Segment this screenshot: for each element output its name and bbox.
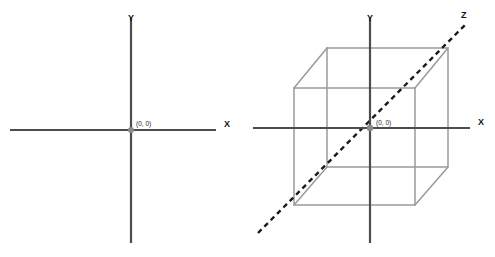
diagram-3d-group: X Y Z (0, 0) <box>253 10 484 243</box>
axis-3d-z-label: Z <box>461 10 467 20</box>
cube-connector-top-left <box>294 48 327 88</box>
axis-3d-y-label: Y <box>367 13 373 23</box>
origin-label-3d: (0, 0) <box>376 119 391 127</box>
axis-2d-y-label: Y <box>128 13 134 23</box>
cube-front-face <box>294 88 415 205</box>
origin-label-2d: (0, 0) <box>136 120 151 128</box>
cube-back-face <box>327 48 448 167</box>
coordinate-systems-figure: X Y (0, 0) X Y <box>0 0 495 257</box>
origin-dot-3d <box>367 125 373 131</box>
cube-connector-bottom-right <box>415 167 448 205</box>
diagram-2d-group: X Y (0, 0) <box>10 13 230 243</box>
axis-3d-x-label: X <box>478 117 484 127</box>
cube-connector-top-right <box>415 48 448 88</box>
diagram-canvas: X Y (0, 0) X Y <box>0 0 495 257</box>
axis-2d-x-label: X <box>224 119 230 129</box>
origin-dot-2d <box>128 127 134 133</box>
cube-connector-bottom-left <box>294 167 327 205</box>
